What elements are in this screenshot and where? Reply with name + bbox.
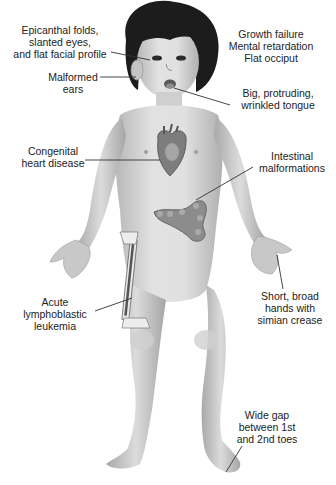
label-growth-failure: Growth failure Mental retardation Flat o… bbox=[216, 28, 326, 64]
label-intestinal-malformations: Intestinal malformations bbox=[252, 150, 332, 174]
arm-right bbox=[214, 118, 266, 246]
label-congenital-heart-disease: Congenital heart disease bbox=[16, 145, 90, 169]
leader-line-tongue bbox=[174, 88, 230, 105]
leg-left bbox=[106, 285, 166, 469]
head bbox=[131, 25, 202, 98]
hand-left bbox=[50, 240, 90, 278]
leader-line-hands bbox=[277, 255, 283, 289]
label-protruding-tongue: Big, protruding, wrinkled tongue bbox=[228, 87, 328, 111]
eye-right bbox=[176, 55, 186, 60]
label-acute-lymphoblastic-leukemia: Acute lymphoblastic leukemia bbox=[18, 296, 92, 332]
label-epicanthal-folds: Epicanthal folds, slanted eyes, and flat… bbox=[10, 24, 110, 60]
label-malformed-ears: Malformed ears bbox=[46, 71, 100, 95]
tongue bbox=[166, 84, 174, 89]
label-wide-toe-gap: Wide gap between 1st and 2nd toes bbox=[232, 409, 302, 445]
hand-right bbox=[251, 236, 292, 274]
label-short-broad-hands: Short, broad hands with simian crease bbox=[250, 290, 330, 326]
eye-left bbox=[152, 55, 162, 60]
down-syndrome-diagram: Epicanthal folds, slanted eyes, and flat… bbox=[0, 0, 336, 485]
